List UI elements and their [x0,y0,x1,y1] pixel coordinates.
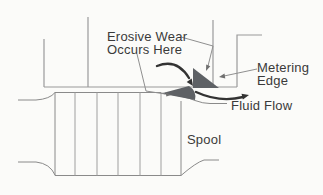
metering-edge-label-line2: Edge [257,75,309,88]
leader-arrowhead [219,74,225,79]
spool-valve-wear-diagram: Erosive Wear Occurs Here Metering Edge F… [0,0,323,195]
fluid-flow-label: Fluid Flow [231,100,292,113]
inflow-arrow-shaft [157,64,189,78]
spool-hatching [75,93,161,176]
spool-label: Spool [187,134,221,147]
leader-arrowhead [206,65,210,71]
metering-edge-leader [224,69,257,76]
stem-bottom-right [181,160,219,176]
inflow-arrow-head [187,79,193,86]
erosive-wear-leader-to-spool [137,54,165,94]
stem-top-left [18,93,55,101]
metering-edge-label: Metering Edge [257,62,309,87]
stem-bottom-left [18,162,55,175]
erosive-wear-label-line2: Occurs Here [107,44,187,57]
erosive-wear-label: Erosive Wear Occurs Here [107,31,187,56]
